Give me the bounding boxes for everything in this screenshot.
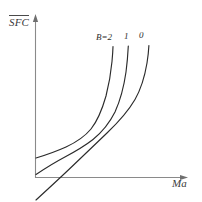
x-axis-label: Ma bbox=[172, 178, 187, 189]
curve-series-b0 bbox=[36, 46, 149, 201]
chart-figure: SFC Ma B=2 1 0 bbox=[0, 0, 202, 202]
curve-label-b2: B=2 bbox=[96, 33, 112, 42]
chart-plot-area bbox=[0, 0, 202, 202]
curve-label-b0: 0 bbox=[139, 31, 144, 40]
y-axis-label-text: SFC bbox=[9, 15, 29, 28]
y-axis-arrowhead bbox=[33, 14, 38, 22]
curve-series-b1 bbox=[36, 46, 128, 175]
y-axis-label: SFC bbox=[9, 15, 29, 28]
curve-label-b1: 1 bbox=[124, 32, 129, 41]
curve-series-b2 bbox=[36, 47, 113, 159]
